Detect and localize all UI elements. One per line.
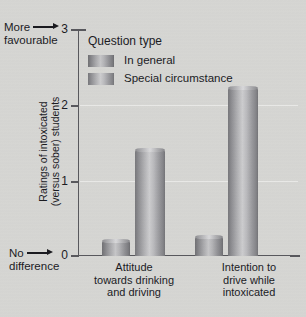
- x-label-intention-line3: intoxicated: [196, 286, 302, 299]
- annotation-more-favourable-line1: More: [4, 21, 30, 33]
- annotation-no-difference-line1: No: [9, 247, 24, 259]
- arrow-right-icon: [27, 249, 53, 256]
- legend: Question type In general Special circums…: [88, 34, 278, 90]
- y-axis-title-line2: (versus sober) students: [49, 62, 61, 242]
- legend-label-special-circumstance: Special circumstance: [124, 72, 233, 85]
- x-label-attitude-line2: towards drinking: [72, 274, 196, 287]
- annotation-no-difference: No difference: [9, 247, 59, 272]
- legend-item-in-general: In general: [88, 54, 278, 67]
- annotation-more-favourable-line2: favourable: [4, 34, 62, 47]
- bar-attitude-in-general: [102, 241, 130, 256]
- legend-item-special-circumstance: Special circumstance: [88, 72, 278, 85]
- legend-swatch-in-general: [88, 55, 114, 67]
- y-axis-title-line1: Ratings of intoxicated: [38, 62, 50, 242]
- x-label-attitude-line1: Attitude: [72, 261, 196, 274]
- axis-baseline-extension: [290, 255, 300, 257]
- x-label-intention-line1: Intention to: [196, 261, 302, 274]
- axis-top-tick: [78, 29, 86, 31]
- y-axis-title: Ratings of intoxicated (versus sober) st…: [38, 62, 61, 242]
- x-label-intention: Intention to drive while intoxicated: [196, 261, 302, 299]
- legend-title: Question type: [88, 34, 278, 48]
- bar-attitude-special-circumstance: [135, 150, 165, 256]
- bar-intention-in-general: [195, 237, 223, 256]
- x-label-attitude: Attitude towards drinking and driving: [72, 261, 196, 299]
- y-tick-1: [71, 181, 79, 183]
- x-label-attitude-line3: and driving: [72, 286, 196, 299]
- bar-intention-special-circumstance: [228, 88, 258, 256]
- legend-swatch-special-circumstance: [88, 73, 114, 85]
- arrow-right-icon: [33, 23, 59, 30]
- annotation-no-difference-line2: difference: [9, 260, 59, 273]
- y-tick-3: [71, 29, 79, 31]
- y-tick-0: [71, 255, 79, 257]
- x-label-intention-line2: drive while: [196, 274, 302, 287]
- bar-chart-figure: 3 2 1 0 Ratings of intoxicated (versus s…: [0, 0, 306, 317]
- annotation-more-favourable: More favourable: [4, 21, 62, 46]
- legend-label-in-general: In general: [124, 54, 175, 67]
- y-tick-2: [71, 105, 79, 107]
